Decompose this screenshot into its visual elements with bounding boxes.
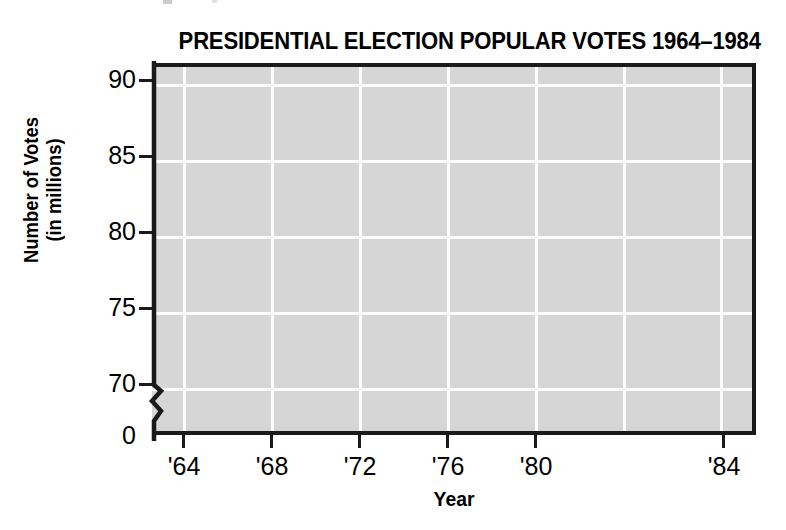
- gridline-x-72: [359, 67, 362, 431]
- x-tick-label-68: '68: [227, 452, 317, 480]
- x-axis-title: Year: [176, 487, 732, 511]
- gridline-y-85: [152, 160, 752, 163]
- x-tick-mark-68: [270, 435, 273, 448]
- y-tick-mark-80: [139, 231, 153, 234]
- y-tick-label-75: 75: [108, 295, 136, 320]
- x-tick-label-84: '84: [679, 452, 769, 480]
- y-tick-label-0: 0: [122, 423, 136, 448]
- x-tick-mark-64: [182, 435, 185, 448]
- scan-artifact: [163, 0, 172, 4]
- x-tick-mark-80: [534, 435, 537, 448]
- y-tick-label-80: 80: [108, 219, 136, 244]
- gridline-y-80: [152, 236, 752, 239]
- gridline-x-80: [535, 67, 538, 431]
- y-tick-mark-85: [139, 155, 153, 158]
- chart-title: PRESIDENTIAL ELECTION POPULAR VOTES 1964…: [179, 26, 730, 56]
- x-tick-mark-84: [722, 435, 725, 448]
- y-tick-label-90: 90: [108, 67, 136, 92]
- gridline-x-right: [720, 67, 723, 431]
- x-tick-label-80: '80: [491, 452, 581, 480]
- gridline-y-90: [152, 84, 752, 87]
- x-tick-label-72: '72: [315, 452, 405, 480]
- plot-area: [152, 63, 756, 435]
- y-tick-label-85: 85: [108, 143, 136, 168]
- gridline-x-76: [447, 67, 450, 431]
- gridline-x-84: [623, 67, 626, 431]
- gridline-x-64: [183, 67, 186, 431]
- x-tick-mark-76: [446, 435, 449, 448]
- y-axis-title-line1: Number of Votes: [20, 52, 43, 328]
- y-tick-label-70: 70: [108, 371, 136, 396]
- x-tick-label-64: '64: [139, 452, 229, 480]
- y-tick-mark-90: [139, 79, 153, 82]
- gridline-y-70: [152, 388, 752, 391]
- gridline-x-68: [271, 67, 274, 431]
- gridline-y-75: [152, 312, 752, 315]
- x-tick-mark-72: [358, 435, 361, 448]
- y-tick-label-group: 90 85 80 75 70 0: [78, 0, 136, 530]
- chart-figure: PRESIDENTIAL ELECTION POPULAR VOTES 1964…: [0, 0, 786, 530]
- y-tick-mark-70: [139, 383, 153, 386]
- scan-artifact-secondary: [212, 0, 217, 3]
- y-axis-title: Number of Votes (in millions): [20, 40, 80, 340]
- y-axis-title-line2: (in millions): [43, 52, 66, 328]
- y-tick-mark-75: [139, 307, 153, 310]
- x-tick-label-76: '76: [403, 452, 493, 480]
